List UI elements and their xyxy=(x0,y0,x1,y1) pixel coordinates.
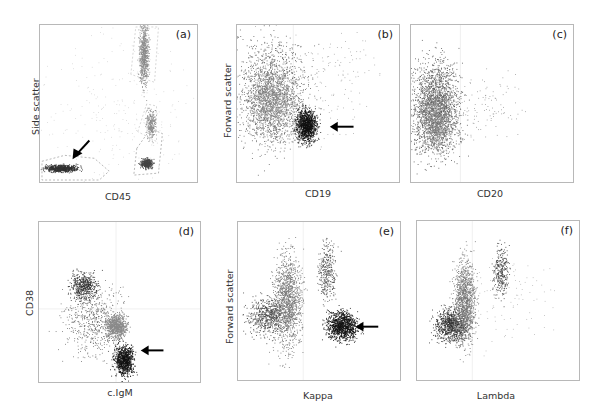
arrow-icon xyxy=(141,345,164,355)
scatter-plot-c xyxy=(411,25,573,182)
panel-c: (c) xyxy=(410,24,574,183)
y-axis-label: Forward scatter xyxy=(222,64,233,138)
panel-label: (c) xyxy=(552,28,567,41)
x-axis-label: Kappa xyxy=(238,390,398,401)
panel-f: (f) xyxy=(416,220,580,381)
scatter-plot-a xyxy=(40,25,197,182)
panel-label: (f) xyxy=(561,224,573,237)
panel-d: (d) xyxy=(38,221,201,383)
y-axis-label: Side scatter xyxy=(30,78,41,135)
panel-a: (a) xyxy=(39,24,198,183)
x-axis-label: CD20 xyxy=(410,188,570,199)
x-axis-label: Lambda xyxy=(416,390,576,401)
x-axis-label: c.IgM xyxy=(40,387,200,398)
y-axis-label: CD38 xyxy=(24,290,35,316)
panel-label: (a) xyxy=(176,28,191,41)
scatter-plot-f xyxy=(417,221,579,380)
arrow-icon xyxy=(356,322,379,332)
panel-b: (b) xyxy=(236,24,400,183)
scatter-plot-e xyxy=(238,222,400,380)
y-axis-label: Forward scatter xyxy=(224,270,235,344)
scatter-plot-d xyxy=(39,222,200,382)
arrow-icon xyxy=(73,141,90,160)
x-axis-label: CD19 xyxy=(238,188,398,199)
x-axis-label: CD45 xyxy=(38,191,198,202)
panel-label: (d) xyxy=(178,225,194,238)
panel-label: (b) xyxy=(377,28,393,41)
arrow-icon xyxy=(330,122,354,132)
scatter-plot-b xyxy=(237,25,399,182)
panel-label: (e) xyxy=(379,225,394,238)
panel-e: (e) xyxy=(237,221,401,381)
